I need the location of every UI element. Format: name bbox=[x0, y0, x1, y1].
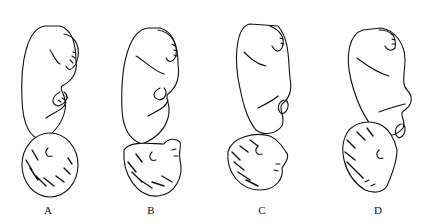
panel-label-c: C bbox=[252, 204, 272, 216]
fetus-a-icon bbox=[10, 0, 85, 200]
fetus-drawing-c bbox=[220, 0, 300, 200]
fetus-c-icon bbox=[220, 0, 300, 200]
panel-label-b: B bbox=[141, 204, 161, 216]
panel-label-d: D bbox=[368, 204, 388, 216]
panel-label-a: A bbox=[38, 204, 58, 216]
fetus-drawing-a bbox=[10, 0, 85, 200]
fetus-drawing-d bbox=[335, 0, 420, 200]
fetus-d-icon bbox=[335, 0, 420, 200]
fetus-b-icon bbox=[108, 0, 188, 200]
fetus-drawing-b bbox=[108, 0, 188, 200]
figure-canvas: A B C bbox=[0, 0, 430, 224]
